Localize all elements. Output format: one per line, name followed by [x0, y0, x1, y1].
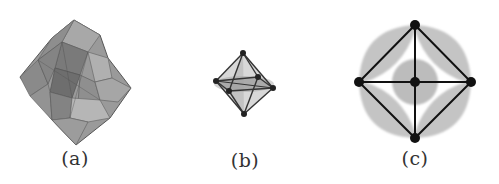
panel-label-c: (c) [402, 147, 429, 169]
panel-c: (c) [0, 0, 499, 184]
